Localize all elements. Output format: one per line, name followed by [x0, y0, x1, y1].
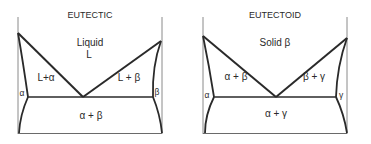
liquid-label: Liquid [77, 37, 104, 48]
beta-solvus [153, 97, 162, 133]
diagram-title: EUTECTIC [68, 10, 114, 20]
alpha-beta-label: α + β [80, 110, 103, 121]
solid-beta-label: Solid β [260, 37, 291, 48]
liquidus-right [83, 41, 161, 97]
alpha-label: α [20, 88, 25, 98]
phase-diagrams: EUTECTIC Liquid L L+α L + β α β α + β EU… [0, 0, 371, 144]
gamma-label: γ [339, 90, 344, 100]
alpha-gamma-label: α + γ [265, 108, 287, 119]
eutectic-diagram: EUTECTIC Liquid L L+α L + β α β α + β [18, 10, 162, 134]
alpha-boundary-lower [205, 97, 214, 133]
alpha-label: α [205, 90, 210, 100]
eutectoid-diagram: EUTECTOID Solid β α + β β + γ α γ α + γ [203, 10, 347, 134]
diagram-title: EUTECTOID [249, 10, 301, 20]
beta-label: β [155, 87, 160, 97]
alpha-beta-label: α + β [225, 71, 248, 82]
alpha-boundary-upper [203, 36, 214, 97]
beta-gamma-label: β + γ [303, 71, 325, 82]
l-beta-label: L + β [118, 72, 141, 83]
l-alpha-label: L+α [37, 72, 54, 83]
alpha-solvus [19, 97, 28, 133]
liquid-symbol: L [86, 49, 92, 60]
gamma-boundary-lower [336, 97, 347, 133]
liquidus-left [18, 33, 83, 97]
